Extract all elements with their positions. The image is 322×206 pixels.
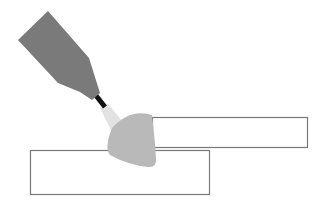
diagram-canvas [0,0,322,206]
welding-diagram [0,0,322,206]
welding-torch [18,11,100,100]
top-plate [153,118,308,148]
